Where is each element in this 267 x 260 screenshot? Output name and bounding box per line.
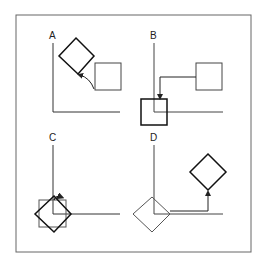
panel-c bbox=[35, 145, 120, 232]
panel-d-translated-square bbox=[190, 154, 226, 190]
panel-d bbox=[133, 145, 226, 232]
panel-c-axes bbox=[53, 145, 120, 214]
panel-b-label: B bbox=[150, 31, 157, 41]
panel-a-rotated-square bbox=[59, 38, 94, 74]
panel-a-original-square bbox=[95, 63, 121, 90]
panel-b bbox=[141, 43, 223, 125]
transformation-diagram: A B C D bbox=[0, 0, 267, 260]
panel-d-translation-arrow bbox=[170, 193, 208, 211]
panel-a-rotation-arrow bbox=[80, 75, 94, 89]
panel-a-axes bbox=[53, 43, 120, 112]
panel-c-label: C bbox=[49, 133, 56, 143]
panel-b-translation-arrow bbox=[160, 77, 196, 97]
diagram-canvas bbox=[0, 0, 267, 260]
panel-a-label: A bbox=[49, 31, 56, 41]
panel-a bbox=[53, 38, 121, 112]
panel-d-axes bbox=[154, 145, 223, 214]
panel-d-label: D bbox=[150, 133, 157, 143]
panel-b-original-square bbox=[196, 63, 222, 90]
